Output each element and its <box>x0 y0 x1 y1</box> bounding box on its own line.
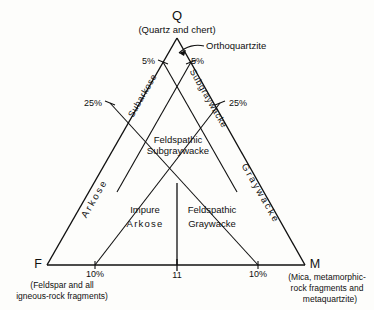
field-impure-arkose-line2: Arkose <box>127 218 164 229</box>
vertex-f-caption-line2: igneous-rock fragments) <box>16 291 108 301</box>
orthoquartzite-label: Orthoquartzite <box>206 40 266 51</box>
tick-label-5-right: 5% <box>191 56 204 66</box>
tick-label-10-left: 10% <box>86 269 104 279</box>
divline-25pct-left <box>110 103 258 265</box>
ternary-diagram-svg: Q (Quartz and chert) Orthoquartzite 5% 5… <box>0 0 374 310</box>
field-impure-arkose-line1: Impure <box>130 204 160 215</box>
tick-label-10-right: 10% <box>249 269 267 279</box>
tick-label-5-left: 5% <box>142 56 155 66</box>
divline-25pct-right <box>95 103 220 265</box>
ternary-diagram-figure: Q (Quartz and chert) Orthoquartzite 5% 5… <box>0 0 374 310</box>
arrow-head <box>179 50 186 56</box>
division-lines-right-parallel <box>110 62 258 265</box>
tick-label-base-center: 11 <box>172 270 181 280</box>
apex-q-letter: Q <box>172 8 182 23</box>
apex-q-caption: (Quartz and chert) <box>138 24 215 35</box>
vertex-m-letter: M <box>310 257 320 271</box>
field-feldspathic-graywacke-line2: Graywacke <box>188 218 236 229</box>
field-subgraywacke: Subgraywacke <box>188 67 230 129</box>
tick-label-25-left: 25% <box>84 98 102 108</box>
tick-label-25-right: 25% <box>229 98 247 108</box>
field-feldspathic-subgraywacke-line2: Subgraywacke <box>147 145 209 156</box>
vertex-m-caption-line3: metaquartzite) <box>303 294 357 304</box>
field-feldspathic-graywacke-line1: Feldspathic <box>188 204 237 215</box>
field-feldspathic-subgraywacke-line1: Feldspathic <box>154 134 203 145</box>
vertex-m-caption-line1: (Mica, metamorphic- <box>288 272 366 282</box>
field-graywacke-band: Graywacke <box>239 161 282 225</box>
vertex-f-caption-line1: (Feldspar and all <box>30 280 93 290</box>
vertex-m-caption-line2: rock fragments and <box>291 283 364 293</box>
field-subarkose: Subarkose <box>126 72 159 119</box>
vertex-f-letter: F <box>34 257 42 271</box>
tick-25-left <box>105 101 115 105</box>
